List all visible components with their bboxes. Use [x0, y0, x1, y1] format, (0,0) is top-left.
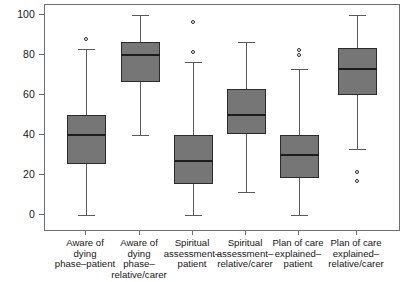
x-axis-tick-mark	[85, 230, 86, 235]
y-axis-tick-label: 60	[0, 88, 35, 100]
boxplot-6	[45, 5, 399, 230]
x-axis-tick-mark	[298, 230, 299, 235]
whisker-cap-lower	[349, 149, 366, 150]
x-axis-tick-mark	[139, 230, 140, 235]
y-axis-tick-label: 20	[0, 168, 35, 180]
outlier-point	[355, 179, 359, 183]
outlier-point	[355, 170, 359, 174]
x-axis-tick-mark	[356, 230, 357, 235]
y-axis-tick-label: 100	[0, 8, 35, 20]
box-iqr	[338, 48, 377, 95]
y-axis-tick-label: 0	[0, 208, 35, 220]
y-axis-tick-label: 40	[0, 128, 35, 140]
x-axis-tick-mark	[245, 230, 246, 235]
whisker-upper	[357, 15, 358, 48]
plot-area	[44, 4, 400, 231]
x-axis-label-6: Plan of care explained– relative/carer	[319, 238, 393, 270]
x-axis-tick-mark	[192, 230, 193, 235]
whisker-lower	[357, 95, 358, 149]
y-axis-tick-label: 80	[0, 48, 35, 60]
boxplot-figure: 020406080100 Aware of dying phase–patien…	[0, 0, 410, 282]
median-line	[338, 68, 377, 70]
whisker-cap-upper	[349, 15, 366, 16]
